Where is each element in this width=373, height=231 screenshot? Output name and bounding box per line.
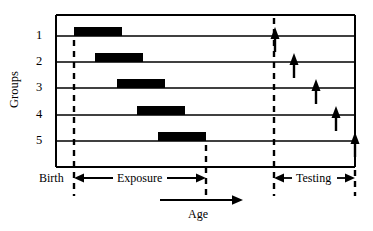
group-label-5: 5 (36, 134, 42, 147)
group-label-2: 2 (36, 55, 42, 68)
group-label-4: 4 (36, 108, 42, 121)
birth-label: Birth (39, 172, 64, 184)
timeline-diagram: Groups 1 2 3 4 5 Birth Exposure Testing … (0, 0, 373, 231)
plot-frame (56, 15, 355, 167)
testing-arrow-group-4 (332, 106, 341, 131)
testing-arrow-group-2 (290, 53, 299, 78)
testing-label: Testing (296, 172, 331, 184)
group-baselines (56, 36, 355, 141)
group-label-1: 1 (36, 29, 42, 42)
diagram-canvas (0, 0, 373, 231)
exposure-bar-group-4 (137, 106, 185, 115)
exposure-bars (74, 27, 206, 141)
reference-lines (74, 18, 355, 196)
exposure-bar-group-5 (158, 132, 206, 141)
age-arrow (160, 195, 243, 205)
exposure-bar-group-3 (117, 79, 165, 88)
y-axis-label: Groups (7, 60, 22, 120)
testing-arrow-group-1 (271, 27, 280, 52)
testing-arrow-group-3 (312, 79, 321, 104)
exposure-bar-group-1 (74, 27, 122, 36)
testing-arrows (271, 27, 360, 157)
group-label-3: 3 (36, 81, 42, 94)
age-label: Age (188, 208, 208, 220)
exposure-bar-group-2 (95, 53, 143, 62)
exposure-label: Exposure (117, 172, 162, 184)
testing-arrow-group-5 (351, 132, 360, 157)
